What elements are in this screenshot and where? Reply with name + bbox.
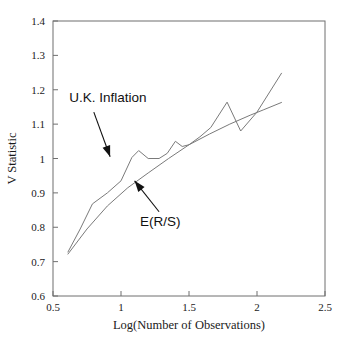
y-tick-label: 0.9 bbox=[31, 187, 45, 199]
series-line-e-r-s bbox=[68, 102, 282, 254]
series-annotation-label: E(R/S) bbox=[140, 214, 181, 229]
line-chart-canvas: 0.511.522.5 0.60.70.80.911.11.21.31.4 U.… bbox=[0, 0, 350, 352]
plot-frame bbox=[53, 21, 325, 296]
y-axis-ticks bbox=[53, 21, 58, 296]
x-tick-label: 1.5 bbox=[182, 301, 196, 313]
y-tick-label: 1 bbox=[40, 153, 46, 165]
y-tick-label: 1.2 bbox=[31, 84, 45, 96]
chart-figure: 0.511.522.5 0.60.70.80.911.11.21.31.4 U.… bbox=[0, 0, 350, 352]
x-tick-label: 2 bbox=[254, 301, 260, 313]
x-tick-label: 2.5 bbox=[318, 301, 332, 313]
x-tick-label: 0.5 bbox=[46, 301, 60, 313]
annotation-arrowhead-icon bbox=[103, 145, 111, 157]
y-tick-label: 1.3 bbox=[31, 49, 45, 61]
series-annotation-label: U.K. Inflation bbox=[69, 90, 146, 105]
y-axis-title: V Statistic bbox=[5, 132, 19, 185]
y-tick-label: 0.8 bbox=[31, 221, 45, 233]
annotation-arrowhead-icon bbox=[135, 181, 145, 192]
annotation-layer: U.K. InflationE(R/S) bbox=[69, 90, 180, 229]
x-axis-tick-labels: 0.511.522.5 bbox=[46, 301, 332, 313]
x-tick-label: 1 bbox=[118, 301, 124, 313]
y-tick-label: 0.6 bbox=[31, 290, 45, 302]
y-tick-label: 0.7 bbox=[31, 256, 45, 268]
y-axis-tick-labels: 0.60.70.80.911.11.21.31.4 bbox=[31, 15, 45, 302]
plot-frame-group bbox=[53, 21, 325, 296]
y-tick-label: 1.1 bbox=[31, 118, 45, 130]
x-axis-title: Log(Number of Observations) bbox=[113, 318, 265, 332]
y-tick-label: 1.4 bbox=[31, 15, 45, 27]
x-axis-ticks bbox=[53, 291, 325, 296]
